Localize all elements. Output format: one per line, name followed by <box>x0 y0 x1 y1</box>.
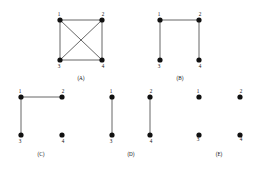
graph-node-3 <box>57 57 62 62</box>
graph-caption-d: (D) <box>119 152 143 157</box>
graph-node-4 <box>99 57 104 62</box>
node-label-1: 1 <box>55 12 63 17</box>
node-label-3: 3 <box>107 139 115 144</box>
graph-canvas <box>54 14 108 66</box>
node-label-2: 2 <box>196 12 204 17</box>
node-label-3: 3 <box>16 139 24 144</box>
node-label-4: 4 <box>237 137 245 142</box>
graph-a: 1234 <box>54 14 108 66</box>
graph-node-1 <box>109 94 114 99</box>
graph-canvas <box>193 91 246 141</box>
graph-canvas <box>106 91 156 141</box>
node-label-1: 1 <box>107 89 115 94</box>
graph-node-3 <box>18 132 23 137</box>
graph-node-2 <box>59 94 64 99</box>
graph-e: 1234 <box>193 91 246 141</box>
node-label-3: 3 <box>155 64 163 69</box>
graph-caption-e: (E) <box>207 152 231 157</box>
node-label-4: 4 <box>147 139 155 144</box>
graph-node-4 <box>59 132 64 137</box>
graph-node-2 <box>99 17 104 22</box>
graph-d: 1234 <box>106 91 156 141</box>
graph-node-1 <box>57 17 62 22</box>
graph-node-1 <box>18 94 23 99</box>
node-label-2: 2 <box>99 12 107 17</box>
graph-node-4 <box>147 132 152 137</box>
graph-canvas <box>154 14 205 66</box>
graph-caption-b: (B) <box>168 76 192 81</box>
node-label-2: 2 <box>59 89 67 94</box>
node-label-3: 3 <box>55 64 63 69</box>
graph-node-2 <box>196 17 201 22</box>
graph-node-2 <box>237 94 242 99</box>
graph-b: 1234 <box>154 14 205 66</box>
graph-node-4 <box>196 57 201 62</box>
graph-c: 1234 <box>15 91 68 141</box>
node-label-1: 1 <box>194 89 202 94</box>
node-label-4: 4 <box>196 64 204 69</box>
graph-node-1 <box>157 17 162 22</box>
graph-node-3 <box>157 57 162 62</box>
graph-node-3 <box>109 132 114 137</box>
node-label-1: 1 <box>155 12 163 17</box>
node-label-2: 2 <box>147 89 155 94</box>
graph-caption-a: (A) <box>69 76 93 81</box>
node-label-4: 4 <box>99 64 107 69</box>
node-label-1: 1 <box>16 89 24 94</box>
graph-caption-c: (C) <box>29 152 53 157</box>
graph-node-1 <box>196 94 201 99</box>
node-label-3: 3 <box>194 137 202 142</box>
node-label-4: 4 <box>59 139 67 144</box>
graph-node-2 <box>147 94 152 99</box>
node-label-2: 2 <box>237 89 245 94</box>
graph-figure: 1234(A)1234(B)1234(C)1234(D)1234(E) <box>0 0 263 174</box>
graph-canvas <box>15 91 68 141</box>
